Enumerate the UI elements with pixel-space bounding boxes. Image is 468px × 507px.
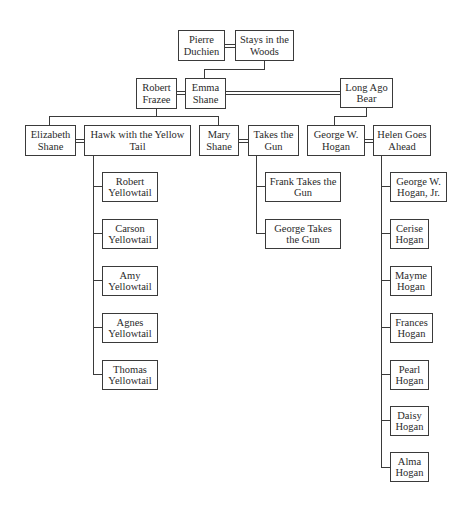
- person-carson-yellowtail: Carson Yellowtail: [102, 219, 158, 249]
- child-connector: [381, 327, 390, 328]
- person-takes-the-gun: Takes the Gun: [248, 125, 299, 156]
- person-thomas-yellowtail: Thomas Yellowtail: [102, 360, 158, 390]
- person-amy-yellowtail: Amy Yellowtail: [102, 266, 158, 296]
- person-george-w-hogan: George W. Hogan: [307, 125, 365, 156]
- person-helen-goes-ahead: Helen Goes Ahead: [373, 125, 431, 156]
- descent-line: [49, 116, 50, 125]
- person-name: Stays in the Woods: [238, 34, 291, 57]
- child-connector: [93, 374, 102, 375]
- person-robert-frazee: Robert Frazee: [136, 78, 177, 109]
- child-connector: [381, 467, 390, 468]
- person-name: Frances Hogan: [393, 317, 430, 340]
- person-name: Cerise Hogan: [393, 223, 426, 246]
- person-name: Robert Yellowtail: [105, 176, 155, 199]
- marriage-line: [365, 139, 373, 143]
- person-name: Long Ago Bear: [343, 82, 390, 105]
- marriage-line: [177, 91, 185, 95]
- person-george-takes-the-gun: George Takes the Gun: [265, 219, 341, 249]
- person-long-ago-bear: Long Ago Bear: [340, 78, 393, 108]
- descent-line: [49, 116, 218, 117]
- person-name: Hawk with the Yellow Tail: [87, 129, 188, 152]
- person-frances-hogan: Frances Hogan: [390, 313, 433, 343]
- person-name: Frank Takes the Gun: [268, 176, 338, 199]
- descent-line: [218, 116, 219, 125]
- person-mayme-hogan: Mayme Hogan: [390, 266, 432, 296]
- person-elizabeth-shane: Elizabeth Shane: [25, 125, 76, 156]
- child-connector: [381, 420, 390, 421]
- person-stays-in-the-woods: Stays in the Woods: [235, 30, 294, 61]
- person-mary-shane: Mary Shane: [199, 125, 239, 156]
- person-name: Carson Yellowtail: [105, 223, 155, 246]
- person-george-w-hogan-jr: George W. Hogan, Jr.: [390, 172, 447, 202]
- child-connector: [93, 327, 102, 328]
- person-agnes-yellowtail: Agnes Yellowtail: [102, 313, 158, 343]
- child-connector: [93, 186, 102, 187]
- person-name: Robert Frazee: [139, 82, 174, 105]
- marriage-line: [226, 91, 340, 95]
- person-name: Helen Goes Ahead: [376, 129, 428, 152]
- child-connector: [256, 186, 265, 187]
- child-connector: [256, 233, 265, 234]
- descent-line: [334, 116, 335, 125]
- person-emma-shane: Emma Shane: [185, 78, 226, 109]
- descent-line: [204, 69, 205, 78]
- marriage-line: [76, 139, 84, 143]
- person-cerise-hogan: Cerise Hogan: [390, 219, 429, 249]
- person-robert-yellowtail: Robert Yellowtail: [102, 172, 158, 202]
- person-name: Elizabeth Shane: [28, 129, 73, 152]
- person-daisy-hogan: Daisy Hogan: [390, 406, 429, 436]
- person-alma-hogan: Alma Hogan: [390, 452, 429, 482]
- child-connector: [93, 233, 102, 234]
- child-connector: [381, 374, 390, 375]
- descent-line: [156, 109, 157, 116]
- person-name: Takes the Gun: [251, 129, 296, 152]
- marriage-line: [225, 44, 235, 48]
- person-name: Pearl Hogan: [393, 364, 426, 387]
- person-name: Mayme Hogan: [393, 270, 429, 293]
- person-pierre-duchien: Pierre Duchien: [178, 30, 225, 61]
- person-name: Alma Hogan: [393, 456, 426, 479]
- descent-line: [334, 116, 367, 117]
- person-pearl-hogan: Pearl Hogan: [390, 360, 429, 390]
- person-frank-takes-the-gun: Frank Takes the Gun: [265, 172, 341, 202]
- person-name: Emma Shane: [188, 82, 223, 105]
- person-name: George W. Hogan: [310, 129, 362, 152]
- marriage-line: [239, 139, 248, 143]
- person-name: Amy Yellowtail: [105, 270, 155, 293]
- person-name: George W. Hogan, Jr.: [393, 176, 444, 199]
- descent-line: [93, 156, 94, 375]
- child-connector: [381, 186, 390, 187]
- person-name: Mary Shane: [202, 129, 236, 152]
- child-connector: [381, 280, 390, 281]
- descent-line: [256, 156, 257, 234]
- person-name: Daisy Hogan: [393, 410, 426, 433]
- person-hawk-with-the-yellow-tail: Hawk with the Yellow Tail: [84, 125, 191, 156]
- descent-line: [366, 108, 367, 116]
- descent-line: [381, 156, 382, 468]
- person-name: Thomas Yellowtail: [105, 364, 155, 387]
- child-connector: [381, 233, 390, 234]
- person-name: Pierre Duchien: [181, 34, 222, 57]
- person-name: George Takes the Gun: [268, 223, 338, 246]
- person-name: Agnes Yellowtail: [105, 317, 155, 340]
- descent-line: [204, 69, 265, 70]
- descent-line: [264, 61, 265, 69]
- child-connector: [93, 280, 102, 281]
